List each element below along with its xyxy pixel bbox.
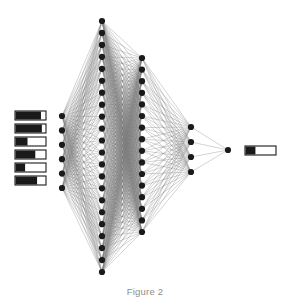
network-node-hidden-1	[99, 78, 105, 84]
network-node-hidden-1	[99, 197, 105, 203]
network-node-output	[225, 147, 231, 153]
input-bar-fill-3	[16, 138, 28, 146]
neural-network-diagram	[0, 0, 290, 300]
network-node-hidden-2	[139, 113, 145, 119]
network-node-hidden-1	[99, 114, 105, 120]
nodes-group	[59, 18, 231, 275]
network-edge	[191, 142, 228, 150]
network-node-hidden-1	[99, 137, 105, 143]
network-node-hidden-1	[99, 269, 105, 275]
network-edge	[142, 58, 191, 172]
input-bar-fill-4	[16, 151, 36, 159]
network-node-hidden-1	[99, 209, 105, 215]
network-node-hidden-1	[99, 30, 105, 36]
network-node-hidden-3	[188, 154, 194, 160]
network-node-hidden-2	[139, 148, 145, 154]
network-node-hidden-2	[139, 206, 145, 212]
network-node-input	[59, 185, 65, 191]
network-node-input	[59, 171, 65, 177]
network-edge	[62, 57, 102, 131]
network-node-input	[59, 142, 65, 148]
network-node-hidden-2	[139, 183, 145, 189]
network-node-hidden-1	[99, 149, 105, 155]
network-node-hidden-2	[139, 136, 145, 142]
network-node-hidden-2	[139, 171, 145, 177]
network-node-hidden-1	[99, 18, 105, 24]
network-edge	[142, 70, 191, 127]
network-node-hidden-3	[188, 169, 194, 175]
network-node-hidden-2	[139, 194, 145, 200]
network-edge	[142, 127, 191, 128]
input-bar-fill-2	[16, 125, 42, 133]
network-node-hidden-1	[99, 245, 105, 251]
network-edge	[191, 127, 228, 150]
network-node-hidden-2	[139, 217, 145, 223]
network-edge	[142, 172, 191, 209]
input-bar-fill-5	[16, 164, 26, 172]
network-node-hidden-1	[99, 173, 105, 179]
network-node-hidden-2	[139, 125, 145, 131]
network-node-hidden-1	[99, 257, 105, 263]
network-node-hidden-1	[99, 185, 105, 191]
network-edge	[142, 142, 191, 151]
network-node-hidden-2	[139, 55, 145, 61]
network-node-hidden-1	[99, 125, 105, 131]
input-bar-fill-6	[16, 177, 38, 185]
network-node-hidden-3	[188, 124, 194, 130]
network-node-hidden-2	[139, 67, 145, 73]
network-node-hidden-2	[139, 159, 145, 165]
network-node-hidden-1	[99, 90, 105, 96]
network-node-hidden-1	[99, 161, 105, 167]
network-node-input	[59, 156, 65, 162]
network-node-hidden-1	[99, 102, 105, 108]
network-node-hidden-2	[139, 101, 145, 107]
network-edge	[142, 157, 191, 209]
input-bar-fill-1	[16, 112, 41, 120]
network-edge	[62, 57, 102, 188]
network-edge	[142, 81, 191, 172]
network-node-hidden-2	[139, 78, 145, 84]
network-node-hidden-1	[99, 42, 105, 48]
network-node-input	[59, 127, 65, 133]
network-node-hidden-2	[139, 229, 145, 235]
network-node-hidden-1	[99, 221, 105, 227]
network-node-hidden-2	[139, 90, 145, 96]
figure-caption: Figure 2	[0, 286, 290, 300]
network-node-hidden-1	[99, 66, 105, 72]
network-node-input	[59, 113, 65, 119]
network-edge	[142, 70, 191, 142]
network-node-hidden-3	[188, 139, 194, 145]
network-node-hidden-1	[99, 233, 105, 239]
output-bar-fill	[246, 147, 256, 155]
figure-container: Figure 2	[0, 0, 290, 300]
network-node-hidden-1	[99, 54, 105, 60]
